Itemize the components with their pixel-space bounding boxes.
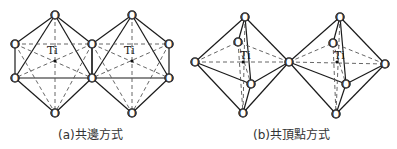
bond-solid bbox=[55, 15, 92, 44]
svg-text:Ti: Ti bbox=[334, 49, 345, 62]
svg-text:O: O bbox=[331, 108, 340, 121]
bond-solid bbox=[251, 62, 289, 84]
oxygen-atom: O bbox=[127, 9, 136, 22]
svg-text:O: O bbox=[164, 72, 173, 85]
bond-solid bbox=[245, 17, 289, 62]
bond-solid bbox=[132, 78, 169, 113]
bond-solid bbox=[289, 62, 336, 114]
svg-text:O: O bbox=[240, 11, 249, 24]
bond-solid bbox=[132, 15, 169, 78]
caption-edge-sharing: (a)共邊方式 bbox=[58, 125, 123, 142]
oxygen-atom: O bbox=[246, 78, 255, 91]
svg-text:O: O bbox=[284, 56, 293, 69]
oxygen-atom: O bbox=[87, 72, 96, 85]
svg-text:O: O bbox=[50, 107, 59, 120]
bond-solid bbox=[346, 64, 385, 84]
oxygen-atom: O bbox=[284, 56, 293, 69]
svg-text:O: O bbox=[87, 72, 96, 85]
svg-text:O: O bbox=[87, 38, 96, 51]
oxygen-atom: O bbox=[10, 72, 19, 85]
svg-text:O: O bbox=[10, 38, 19, 51]
bond-solid bbox=[195, 62, 251, 84]
svg-text:Ti: Ti bbox=[124, 44, 135, 57]
svg-text:O: O bbox=[127, 9, 136, 22]
svg-text:O: O bbox=[190, 56, 199, 69]
bond-hidden bbox=[195, 42, 238, 62]
svg-text:O: O bbox=[341, 78, 350, 91]
bond-hidden bbox=[289, 43, 333, 62]
svg-text:O: O bbox=[127, 107, 136, 120]
svg-text:O: O bbox=[10, 72, 19, 85]
oxygen-atom: O bbox=[380, 58, 389, 71]
oxygen-atom: O bbox=[50, 107, 59, 120]
oxygen-atom: O bbox=[331, 108, 340, 121]
svg-text:Ti: Ti bbox=[47, 44, 58, 57]
bond-solid bbox=[132, 15, 169, 44]
bond-solid bbox=[195, 62, 243, 113]
titanium-atom: Ti bbox=[334, 49, 345, 64]
svg-text:Ti: Ti bbox=[240, 49, 251, 62]
bond-solid bbox=[92, 78, 132, 113]
oxygen-atom: O bbox=[127, 107, 136, 120]
svg-text:O: O bbox=[246, 78, 255, 91]
oxygen-atom: O bbox=[164, 38, 173, 51]
oxygen-atom: O bbox=[240, 11, 249, 24]
svg-text:O: O bbox=[50, 9, 59, 22]
bond-solid bbox=[340, 17, 385, 64]
atoms: TiOOOOOOTiOOOOTiOOOOOOTiOOOOO bbox=[10, 9, 389, 121]
titanium-atom: Ti bbox=[240, 49, 251, 64]
svg-text:O: O bbox=[335, 11, 344, 24]
bond-lines bbox=[15, 15, 385, 114]
bond-solid bbox=[15, 78, 55, 113]
bond-solid bbox=[55, 15, 92, 78]
oxygen-atom: O bbox=[233, 36, 242, 49]
svg-text:O: O bbox=[164, 38, 173, 51]
svg-text:O: O bbox=[233, 36, 242, 49]
caption-corner-sharing: (b)共頂點方式 bbox=[253, 125, 330, 142]
bond-solid bbox=[15, 15, 55, 44]
svg-text:O: O bbox=[328, 37, 337, 50]
oxygen-atom: O bbox=[190, 56, 199, 69]
oxygen-atom: O bbox=[10, 38, 19, 51]
oxygen-atom: O bbox=[328, 37, 337, 50]
oxygen-atom: O bbox=[341, 78, 350, 91]
svg-text:O: O bbox=[238, 107, 247, 120]
oxygen-atom: O bbox=[50, 9, 59, 22]
oxygen-atom: O bbox=[335, 11, 344, 24]
oxygen-atom: O bbox=[87, 38, 96, 51]
oxygen-atom: O bbox=[238, 107, 247, 120]
svg-text:O: O bbox=[380, 58, 389, 71]
oxygen-atom: O bbox=[164, 72, 173, 85]
bond-solid bbox=[55, 78, 92, 113]
bond-solid bbox=[92, 15, 132, 44]
